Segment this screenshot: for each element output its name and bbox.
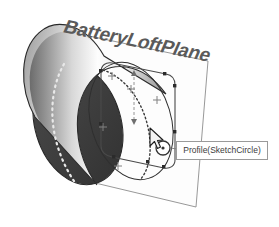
sketch-point — [99, 69, 102, 72]
sketch-point — [162, 165, 165, 168]
sketch-point — [146, 160, 149, 163]
sketch-circle-center — [161, 146, 164, 149]
cad-viewport[interactable]: BatteryLoftPlane Profile(SketchCircle) — [0, 0, 279, 227]
sketch-point — [99, 122, 102, 125]
profile-tooltip[interactable]: Profile(SketchCircle) — [176, 141, 268, 160]
sketch-point — [163, 72, 166, 75]
sketch-point — [112, 155, 115, 158]
profile-tooltip-label: Profile(SketchCircle) — [183, 146, 260, 155]
sketch-point — [173, 130, 176, 133]
sketch-point — [173, 84, 176, 87]
cad-scene: BatteryLoftPlane — [0, 0, 279, 227]
